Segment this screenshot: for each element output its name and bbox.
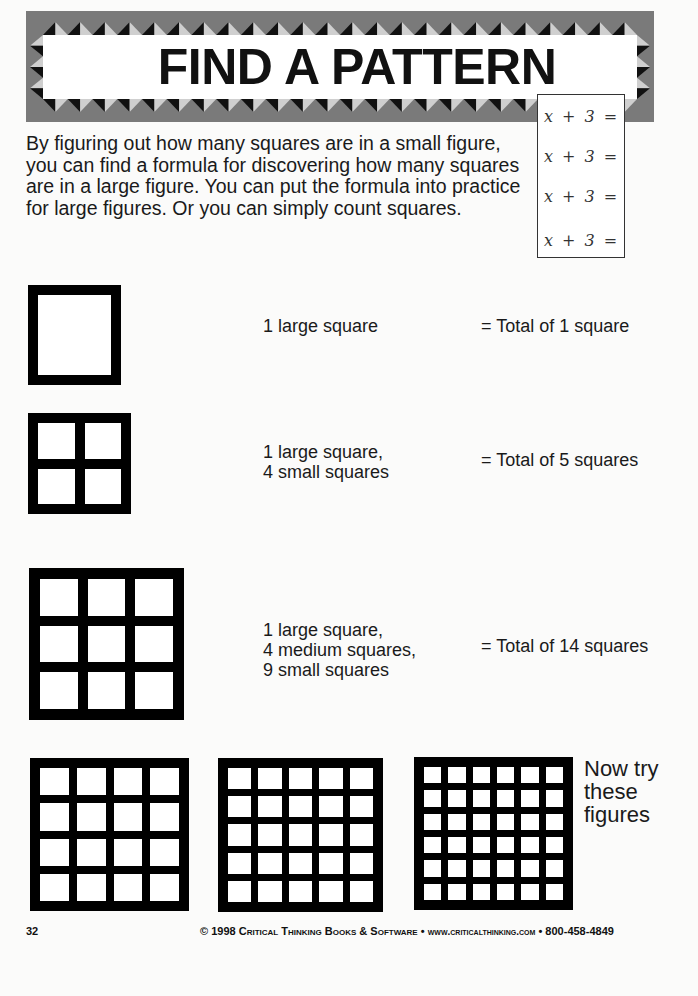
grid-cell (114, 874, 143, 901)
grid-cell (88, 579, 126, 616)
grid-cell (258, 796, 281, 817)
grid-cell (350, 796, 373, 817)
grid-cell (289, 796, 312, 817)
grid-cell (228, 881, 251, 902)
grid-cell (135, 672, 173, 709)
grid-cell (319, 824, 342, 845)
grid-cell (521, 860, 538, 876)
grid-cell (521, 814, 538, 830)
grid-cell (77, 874, 106, 901)
grid-cell (77, 768, 106, 795)
grid-cell (38, 423, 75, 459)
grid-cell (448, 884, 465, 900)
grid-cell (150, 768, 179, 795)
grid-cell (497, 837, 514, 853)
grid-cell (497, 767, 514, 783)
separator: • (421, 925, 425, 937)
grid-cell (448, 790, 465, 806)
grid-cell (424, 860, 441, 876)
grid-cell (40, 874, 69, 901)
grid-cell (350, 824, 373, 845)
practice-prompt: Now try these figures (584, 757, 659, 826)
formula-line-1: x + 3 = (544, 107, 619, 126)
grid-cell (40, 579, 78, 616)
grid-cell (114, 803, 143, 830)
grid-cell (521, 837, 538, 853)
website: www.criticalthinking.com (428, 926, 536, 937)
grid-cell (424, 837, 441, 853)
description-line: 9 small squares (263, 660, 416, 680)
grid-cell (350, 881, 373, 902)
grid-cell (114, 839, 143, 866)
grid-cell (546, 814, 563, 830)
grid-cell (88, 626, 126, 663)
grid-cell (289, 881, 312, 902)
description-line: 4 medium squares, (263, 640, 416, 660)
grid-cell (150, 839, 179, 866)
copyright: © 1998 (200, 925, 236, 937)
grid-cell (521, 767, 538, 783)
grid-cell (546, 884, 563, 900)
grid-cell (473, 767, 490, 783)
phone: 800-458-4849 (545, 925, 614, 937)
page-title: FIND A PATTERN (43, 35, 637, 99)
formula-box: x + 3 = x + 3 = x + 3 = x + 3 = (537, 94, 625, 258)
grid-cell (350, 768, 373, 789)
grid-cell (135, 579, 173, 616)
intro-paragraph: By figuring out how many squares are in … (26, 133, 526, 219)
banner-inner-panel: FIND A PATTERN (43, 35, 637, 99)
grid-cell (473, 790, 490, 806)
grid-cell (40, 768, 69, 795)
grid-cell (497, 884, 514, 900)
grid-cell (319, 796, 342, 817)
grid-cell (258, 881, 281, 902)
grid-figure-2x2 (28, 413, 131, 514)
grid-cell (497, 814, 514, 830)
grid-cell (473, 837, 490, 853)
grid-figure-4x4 (30, 758, 189, 911)
formula-line-4: x + 3 = (544, 231, 619, 250)
footer-credit: © 1998 Critical Thinking Books & Softwar… (200, 925, 614, 937)
grid-cell (228, 824, 251, 845)
formula-line-3: x + 3 = (544, 187, 619, 206)
grid-cell (473, 814, 490, 830)
grid-cell (38, 469, 75, 505)
grid-figure-3x3 (29, 568, 184, 720)
grid-cell (114, 768, 143, 795)
grid-cell (258, 853, 281, 874)
grid-cell (424, 790, 441, 806)
grid-cell (473, 860, 490, 876)
grid-cell (497, 790, 514, 806)
grid-cell (319, 768, 342, 789)
grid-cell (350, 853, 373, 874)
grid-cell (546, 790, 563, 806)
grid-cell (85, 469, 122, 505)
grid-cell (135, 626, 173, 663)
grid-cell (319, 881, 342, 902)
grid-cell (319, 853, 342, 874)
grid-cell (77, 803, 106, 830)
grid-cell (424, 814, 441, 830)
grid-cell (424, 884, 441, 900)
example-3-description: 1 large square, 4 medium squares, 9 smal… (263, 620, 416, 680)
grid-cell (38, 295, 111, 375)
grid-cell (521, 884, 538, 900)
publisher: Critical Thinking Books & Software (239, 925, 418, 937)
grid-cell (228, 768, 251, 789)
grid-cell (546, 860, 563, 876)
separator: • (538, 925, 542, 937)
grid-cell (40, 672, 78, 709)
grid-cell (150, 803, 179, 830)
description-line: 4 small squares (263, 462, 389, 482)
grid-cell (497, 860, 514, 876)
grid-cell (473, 884, 490, 900)
example-2-total: = Total of 5 squares (481, 450, 638, 471)
grid-cell (40, 839, 69, 866)
grid-cell (289, 853, 312, 874)
formula-line-2: x + 3 = (544, 147, 619, 166)
grid-figure-5x5 (218, 758, 383, 912)
grid-cell (448, 767, 465, 783)
grid-cell (85, 423, 122, 459)
description-line: 1 large square, (263, 442, 389, 462)
grid-figure-6x6 (414, 757, 573, 910)
